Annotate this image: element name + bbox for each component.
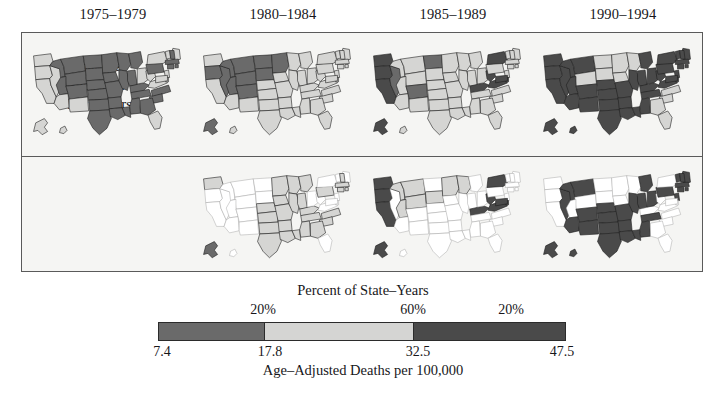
state-ak[interactable] <box>544 119 558 135</box>
state-sd[interactable] <box>425 191 443 204</box>
state-ak[interactable] <box>374 242 388 258</box>
state-nh[interactable] <box>340 173 345 182</box>
state-ma[interactable] <box>505 59 519 64</box>
map-cell-r1-c2[interactable] <box>362 157 532 278</box>
state-mi[interactable] <box>469 175 483 192</box>
state-ks[interactable] <box>88 88 109 100</box>
state-ok[interactable] <box>259 99 282 111</box>
state-co[interactable] <box>576 84 598 99</box>
state-mn[interactable] <box>272 176 289 197</box>
state-tx[interactable] <box>428 233 452 258</box>
state-co[interactable] <box>66 84 88 99</box>
map-cell-r0-c0[interactable] <box>22 34 192 155</box>
state-nh[interactable] <box>680 50 685 59</box>
state-ar[interactable] <box>278 97 292 109</box>
state-nm[interactable] <box>409 97 428 112</box>
state-ny[interactable] <box>317 175 338 188</box>
state-hi[interactable] <box>229 126 237 134</box>
state-ok[interactable] <box>599 99 622 111</box>
state-ok[interactable] <box>429 222 452 234</box>
state-ks[interactable] <box>428 88 449 100</box>
state-tx[interactable] <box>428 110 452 135</box>
state-nm[interactable] <box>239 97 258 112</box>
state-tx[interactable] <box>598 110 622 135</box>
state-ar[interactable] <box>448 220 462 232</box>
state-ct[interactable] <box>677 188 683 192</box>
state-co[interactable] <box>236 207 258 222</box>
state-nd[interactable] <box>253 55 272 69</box>
state-nm[interactable] <box>409 220 428 235</box>
map-cell-r1-c1[interactable] <box>192 157 362 278</box>
state-nd[interactable] <box>593 178 612 192</box>
state-ri[interactable] <box>345 65 348 68</box>
state-or[interactable] <box>205 189 223 203</box>
state-mi[interactable] <box>299 175 313 192</box>
state-ar[interactable] <box>278 220 292 232</box>
state-ny[interactable] <box>487 175 508 188</box>
state-or[interactable] <box>205 66 223 80</box>
state-mn[interactable] <box>272 53 289 74</box>
state-ok[interactable] <box>89 99 112 111</box>
state-sd[interactable] <box>595 191 613 204</box>
state-nh[interactable] <box>510 50 515 59</box>
state-nd[interactable] <box>423 55 442 69</box>
state-ri[interactable] <box>515 65 518 68</box>
state-in[interactable] <box>638 70 648 86</box>
state-sd[interactable] <box>595 68 613 81</box>
state-mi[interactable] <box>639 52 653 69</box>
state-mn[interactable] <box>612 176 629 197</box>
state-ks[interactable] <box>258 211 279 223</box>
state-co[interactable] <box>406 84 428 99</box>
state-ar[interactable] <box>448 97 462 109</box>
state-ga[interactable] <box>310 221 325 238</box>
state-tx[interactable] <box>258 110 282 135</box>
state-ar[interactable] <box>618 220 632 232</box>
state-al[interactable] <box>470 98 481 114</box>
state-co[interactable] <box>406 207 428 222</box>
state-al[interactable] <box>470 221 481 237</box>
state-tx[interactable] <box>598 233 622 258</box>
state-ak[interactable] <box>544 242 558 258</box>
state-in[interactable] <box>298 70 308 86</box>
state-ct[interactable] <box>337 65 343 69</box>
state-sd[interactable] <box>255 191 273 204</box>
map-cell-r1-c3[interactable] <box>532 157 702 278</box>
state-or[interactable] <box>375 189 393 203</box>
state-in[interactable] <box>468 193 478 209</box>
state-nd[interactable] <box>83 55 102 69</box>
state-ri[interactable] <box>685 188 688 191</box>
map-cell-r0-c1[interactable] <box>192 34 362 155</box>
state-or[interactable] <box>545 66 563 80</box>
state-mn[interactable] <box>102 53 119 74</box>
state-ny[interactable] <box>147 52 168 65</box>
state-hi[interactable] <box>399 126 407 134</box>
state-hi[interactable] <box>229 249 237 257</box>
state-ok[interactable] <box>429 99 452 111</box>
state-ak[interactable] <box>204 119 218 135</box>
state-ma[interactable] <box>675 182 689 187</box>
state-co[interactable] <box>576 207 598 222</box>
state-ct[interactable] <box>167 65 173 69</box>
map-cell-r0-c2[interactable] <box>362 34 532 155</box>
state-al[interactable] <box>300 98 311 114</box>
state-mi[interactable] <box>639 175 653 192</box>
state-nd[interactable] <box>423 178 442 192</box>
state-ok[interactable] <box>599 222 622 234</box>
state-ar[interactable] <box>108 97 122 109</box>
state-nm[interactable] <box>579 97 598 112</box>
state-ny[interactable] <box>317 52 338 65</box>
state-wa[interactable] <box>204 177 223 190</box>
state-ri[interactable] <box>345 188 348 191</box>
state-ks[interactable] <box>258 88 279 100</box>
state-sd[interactable] <box>255 68 273 81</box>
state-al[interactable] <box>640 98 651 114</box>
state-co[interactable] <box>236 84 258 99</box>
state-in[interactable] <box>298 193 308 209</box>
state-nh[interactable] <box>340 50 345 59</box>
state-nh[interactable] <box>170 50 175 59</box>
state-ma[interactable] <box>505 182 519 187</box>
state-ma[interactable] <box>335 182 349 187</box>
state-hi[interactable] <box>59 126 67 134</box>
state-ct[interactable] <box>507 65 513 69</box>
state-in[interactable] <box>638 193 648 209</box>
